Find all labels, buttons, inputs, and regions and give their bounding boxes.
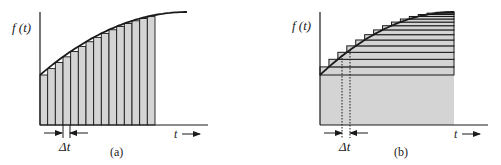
strip [109,30,117,125]
strip [101,33,109,125]
vertical-strips [40,17,155,125]
strip [78,46,86,125]
strip [338,52,454,59]
panel-a: f (t) t Δt (a) [12,12,208,159]
base-fill [320,75,454,125]
strip [40,75,48,125]
strip [347,46,454,52]
strip [374,30,454,35]
strip [124,23,132,125]
y-axis-label: f (t) [12,20,31,35]
figure-canvas: f (t) t Δt (a) f (t) t Δt (b) [0,0,501,165]
strip [132,21,140,125]
strip [140,19,148,125]
panel-caption: (b) [394,145,408,159]
delta-t-label: Δt [58,139,71,154]
strip [63,57,71,125]
strip [147,17,155,125]
strip [48,69,56,125]
horizontal-strips [320,12,454,125]
strip [55,63,63,125]
strip [71,51,79,125]
strip [86,42,94,125]
delta-t-label: Δt [338,139,351,154]
strip [383,26,454,30]
strip [117,26,125,125]
panel-caption: (a) [110,145,123,159]
panel-b: f (t) t Δt (b) [292,12,488,159]
strip [320,67,454,75]
x-axis-label: t [454,127,458,141]
strip [365,35,454,40]
strip [329,59,454,67]
strip [94,37,102,125]
strip [356,40,454,46]
x-axis-label: t [174,127,178,141]
y-axis-label: f (t) [292,18,311,33]
